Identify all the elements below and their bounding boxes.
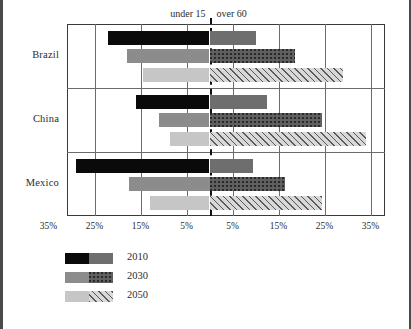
legend-label-2030: 2030 (127, 270, 148, 281)
row-label-china: China (7, 113, 59, 124)
row-label-brazil: Brazil (7, 49, 59, 60)
xtick-right-25: 25% (308, 221, 342, 231)
legend-swatch-left-2030 (65, 272, 89, 283)
page-frame: BrazilChinaMexicounder 15over 6035%25%15… (0, 0, 411, 329)
row-label-mexico: Mexico (7, 177, 59, 188)
gridline (95, 24, 96, 216)
row-separator (67, 88, 385, 89)
bar-china-2030-under15 (159, 113, 210, 127)
population-pyramid-chart: BrazilChinaMexicounder 15over 6035%25%15… (3, 0, 411, 329)
xtick-left-25: 25% (78, 221, 112, 231)
bar-mexico-2050-over60 (210, 196, 323, 210)
gridline (371, 24, 372, 216)
bar-mexico-2050-under15 (150, 196, 210, 210)
bar-china-2050-under15 (170, 132, 209, 146)
xtick-right-5: 5% (216, 221, 250, 231)
bar-mexico-2010-under15 (76, 159, 209, 173)
legend-swatch-right-2010 (89, 253, 113, 264)
xtick-left-15: 15% (124, 221, 158, 231)
bar-brazil-2050-under15 (143, 68, 210, 82)
legend-label-2010: 2010 (127, 251, 148, 262)
bar-china-2050-over60 (210, 132, 366, 146)
legend-label-2050: 2050 (127, 289, 148, 300)
legend-swatch-left-2050 (65, 291, 89, 302)
bar-brazil-2010-under15 (108, 31, 209, 45)
under-15-label: under 15 (144, 8, 206, 19)
over-60-label: over 60 (217, 8, 247, 19)
bar-brazil-2010-over60 (210, 31, 256, 45)
bar-mexico-2030-under15 (129, 177, 210, 191)
legend-swatch-right-2050 (89, 291, 113, 302)
bar-brazil-2030-over60 (210, 49, 295, 63)
xtick-left-5: 5% (170, 221, 204, 231)
xtick-left-35: 35% (32, 221, 66, 231)
bar-china-2010-over60 (210, 95, 268, 109)
gridline (325, 24, 326, 216)
bar-mexico-2030-over60 (210, 177, 286, 191)
legend-swatch-right-2030 (89, 272, 113, 283)
legend-swatch-left-2010 (65, 253, 89, 264)
bar-china-2030-over60 (210, 113, 323, 127)
bar-mexico-2010-over60 (210, 159, 254, 173)
xtick-right-35: 35% (354, 221, 388, 231)
bar-brazil-2030-under15 (127, 49, 210, 63)
bar-brazil-2050-over60 (210, 68, 343, 82)
xtick-right-15: 15% (262, 221, 296, 231)
bar-china-2010-under15 (136, 95, 210, 109)
row-separator (67, 152, 385, 153)
